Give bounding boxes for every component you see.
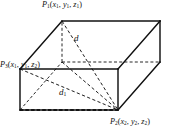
edge-front-bottom-right-to-back-bottom-right <box>118 62 160 110</box>
d-letter: d <box>74 33 79 43</box>
p1-close-paren: ) <box>79 0 82 9</box>
p3-close-paren: ) <box>37 60 40 69</box>
line-p3-to-front-bottom-right <box>20 69 118 110</box>
dashed-base-triangle <box>20 69 118 110</box>
figure-container: P1(x1, y1, z1) P3(x1, y1, z2) P2(x2, y2,… <box>0 0 169 137</box>
p2-close-paren: ) <box>147 117 150 126</box>
diagonal-d-p1-to-p2 <box>62 21 118 110</box>
edge-front-top-right-to-back-top-right <box>118 21 160 69</box>
vertex-label-p3: P3(x1, y1, z2) <box>0 61 40 69</box>
diagonal-label-d1: d1 <box>59 88 66 97</box>
diagonal-label-d: d <box>74 34 79 43</box>
vertex-label-p1: P1(x1, y1, z1) <box>42 1 82 9</box>
vertex-label-p2: P2(x2, y2, z2) <box>110 118 150 126</box>
d1-subscript: 1 <box>64 91 67 97</box>
